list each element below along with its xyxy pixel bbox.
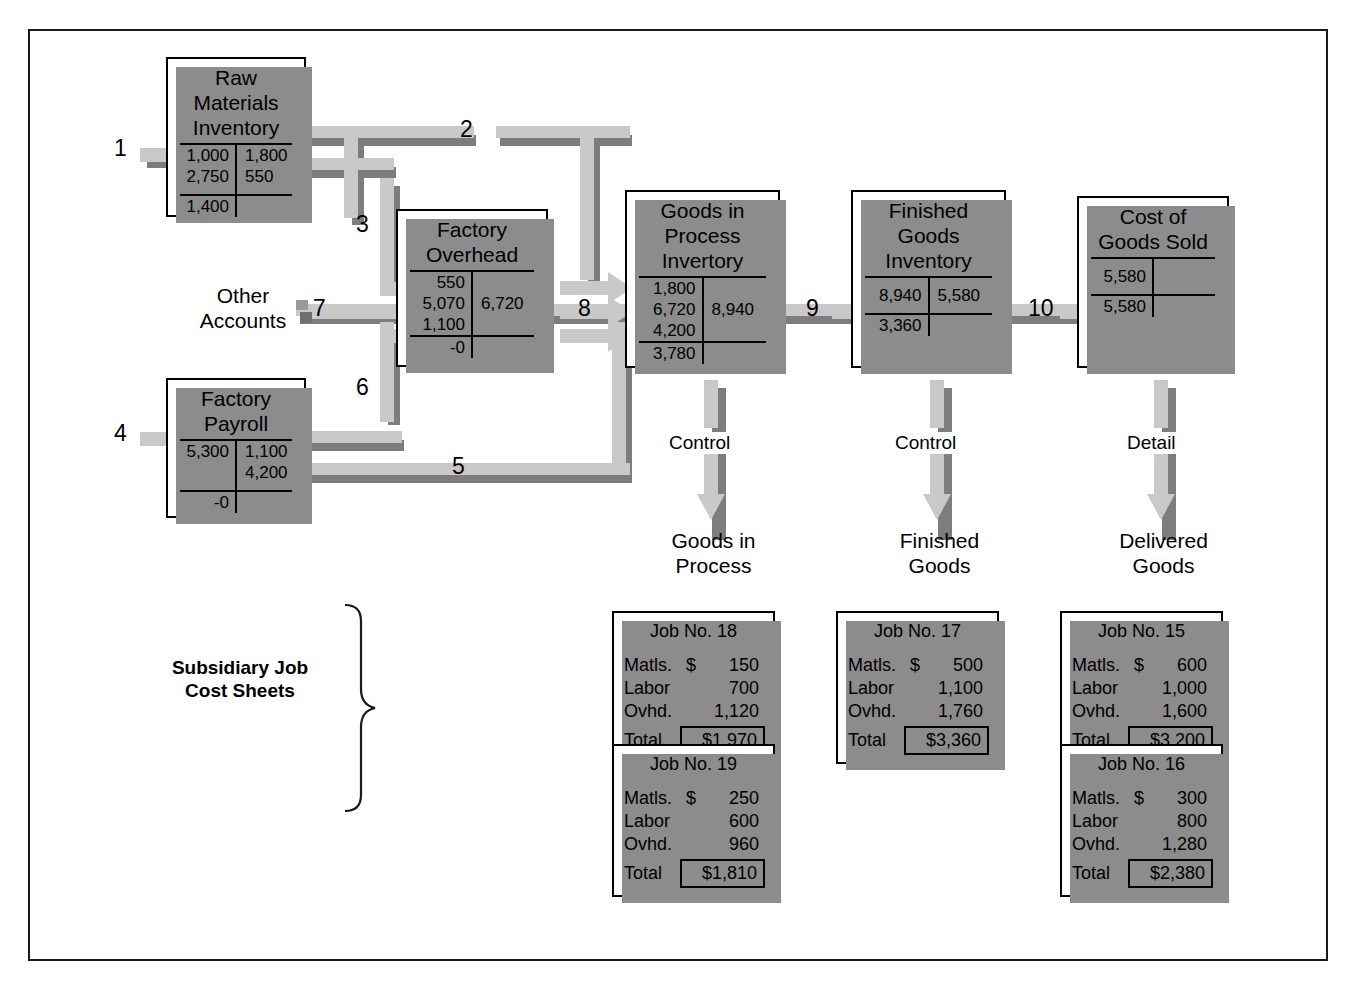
balance-row: 3,780 <box>639 343 766 364</box>
diagram-canvas: Raw Materials Inventory 1,000 1,800 2,75… <box>0 0 1358 995</box>
subsidiary-job-cost-sheets-label: Subsidiary Job Cost Sheets <box>150 656 330 702</box>
balance-credit <box>472 337 534 358</box>
currency-symbol: $ <box>910 654 928 677</box>
job-line-labor: Labor 600 <box>614 810 773 833</box>
flow-number-6: 6 <box>356 376 369 399</box>
detail-label-delivered-goods: Detail <box>1124 432 1179 454</box>
job-line-materials: Matls. $ 500 <box>838 654 997 677</box>
balance-credit <box>703 343 767 364</box>
job-total-row: Total $3,360 <box>838 723 997 762</box>
job-line-overhead: Ovhd. 960 <box>614 833 773 856</box>
job-line-value: 1,100 <box>928 677 987 700</box>
account-ledger: 5,300 1,100 4,200 -0 <box>180 439 292 513</box>
balance-row: 3,360 <box>865 315 992 336</box>
job-line-label: Ovhd. <box>848 700 910 723</box>
flow-number-10: 10 <box>1028 297 1054 320</box>
job-line-label: Labor <box>624 677 686 700</box>
job-line-value: 960 <box>704 833 763 856</box>
balance-credit <box>929 315 993 336</box>
job-line-value: 500 <box>928 654 987 677</box>
flow-number-1: 1 <box>114 137 127 160</box>
account-title: Cost of Goods Sold <box>1079 198 1227 257</box>
job-line-overhead: Ovhd. 1,120 <box>614 700 773 723</box>
ledger-row: 1,100 <box>410 314 534 335</box>
job-total-row: Total $2,380 <box>1062 856 1221 895</box>
job-line-value: 1,000 <box>1152 677 1211 700</box>
account-title: Raw Materials Inventory <box>168 59 304 143</box>
job-line-materials: Matls. $ 600 <box>1062 654 1221 677</box>
flow-number-9: 9 <box>806 297 819 320</box>
flow-number-7: 7 <box>313 297 326 320</box>
ledger-row: 5,070 6,720 <box>410 293 534 314</box>
job-line-label: Ovhd. <box>1072 700 1134 723</box>
credit-cell: 5,580 <box>929 285 993 306</box>
ledger-row: 2,750 550 <box>180 166 292 187</box>
credit-cell <box>703 320 767 341</box>
job-line-value: 1,120 <box>704 700 763 723</box>
job-line-label: Matls. <box>1072 654 1134 677</box>
currency-symbol: $ <box>1134 787 1152 810</box>
balance-credit <box>236 196 292 217</box>
account-ledger: 1,800 6,720 8,940 4,200 3,780 <box>639 276 766 364</box>
job-line-label: Labor <box>1072 810 1134 833</box>
job-line-value: 1,760 <box>928 700 987 723</box>
job-line-value: 250 <box>704 787 763 810</box>
ledger-row: 550 <box>410 272 534 293</box>
control-label-finished-goods: Control <box>892 432 959 454</box>
balance-debit: 3,360 <box>865 315 929 336</box>
balance-debit: -0 <box>180 492 236 513</box>
t-account-cost-of-goods-sold: Cost of Goods Sold 5,580 5,580 <box>1077 196 1229 368</box>
ledger-row: 4,200 <box>639 320 766 341</box>
ledger-row: 5,580 <box>1091 266 1215 287</box>
account-ledger: 8,940 5,580 3,360 <box>865 276 992 336</box>
t-account-goods-in-process-inventory: Goods in Process Invertory 1,800 6,720 8… <box>625 190 780 368</box>
job-sheet-title: Job No. 19 <box>614 746 773 787</box>
job-line-label: Ovhd. <box>624 833 686 856</box>
job-line-label: Ovhd. <box>624 700 686 723</box>
job-total-row: Total $1,810 <box>614 856 773 895</box>
currency-symbol: $ <box>686 654 704 677</box>
job-total-label: Total <box>848 729 904 752</box>
t-account-factory-payroll: Factory Payroll 5,300 1,100 4,200 -0 <box>166 378 306 518</box>
currency-symbol: $ <box>686 787 704 810</box>
job-cost-sheet-job-17: Job No. 17 Matls. $ 500 Labor 1,100 Ovhd… <box>836 611 999 764</box>
balance-debit: 3,780 <box>639 343 703 364</box>
job-line-label: Matls. <box>848 654 910 677</box>
job-line-value: 300 <box>1152 787 1211 810</box>
job-line-overhead: Ovhd. 1,600 <box>1062 700 1221 723</box>
debit-cell: 550 <box>410 272 472 293</box>
debit-cell: 1,000 <box>180 145 236 166</box>
job-line-labor: Labor 1,100 <box>838 677 997 700</box>
balance-debit: 1,400 <box>180 196 236 217</box>
credit-cell: 1,100 <box>236 441 292 462</box>
balance-credit <box>236 492 292 513</box>
job-line-value: 700 <box>704 677 763 700</box>
job-line-label: Labor <box>1072 677 1134 700</box>
job-line-value: 600 <box>704 810 763 833</box>
debit-cell: 6,720 <box>639 299 703 320</box>
t-account-raw-materials-inventory: Raw Materials Inventory 1,000 1,800 2,75… <box>166 57 306 217</box>
t-account-factory-overhead: Factory Overhead 550 5,070 6,720 1,100 <box>396 209 548 367</box>
credit-cell <box>472 314 534 335</box>
balance-row: -0 <box>410 337 534 358</box>
flow-number-2: 2 <box>460 118 473 141</box>
job-line-label: Matls. <box>1072 787 1134 810</box>
currency-symbol: $ <box>1134 654 1152 677</box>
account-ledger: 1,000 1,800 2,750 550 1,400 <box>180 143 292 217</box>
job-total-label: Total <box>1072 862 1128 885</box>
debit-cell: 8,940 <box>865 285 929 306</box>
debit-cell <box>180 462 236 483</box>
subsidiary-group-title-finished-goods: Finished Goods <box>867 528 1012 578</box>
debit-cell: 1,800 <box>639 278 703 299</box>
job-line-value: 1,280 <box>1152 833 1211 856</box>
balance-row: -0 <box>180 492 292 513</box>
debit-cell: 5,580 <box>1091 266 1153 287</box>
job-line-label: Labor <box>624 810 686 833</box>
subsidiary-group-title-goods-in-process: Goods in Process <box>641 528 786 578</box>
balance-row: 1,400 <box>180 196 292 217</box>
flow-number-4: 4 <box>114 422 127 445</box>
ledger-row: 1,000 1,800 <box>180 145 292 166</box>
job-line-label: Ovhd. <box>1072 833 1134 856</box>
job-total-label: Total <box>624 862 680 885</box>
job-cost-sheet-job-18: Job No. 18 Matls. $ 150 Labor 700 Ovhd. … <box>612 611 775 764</box>
